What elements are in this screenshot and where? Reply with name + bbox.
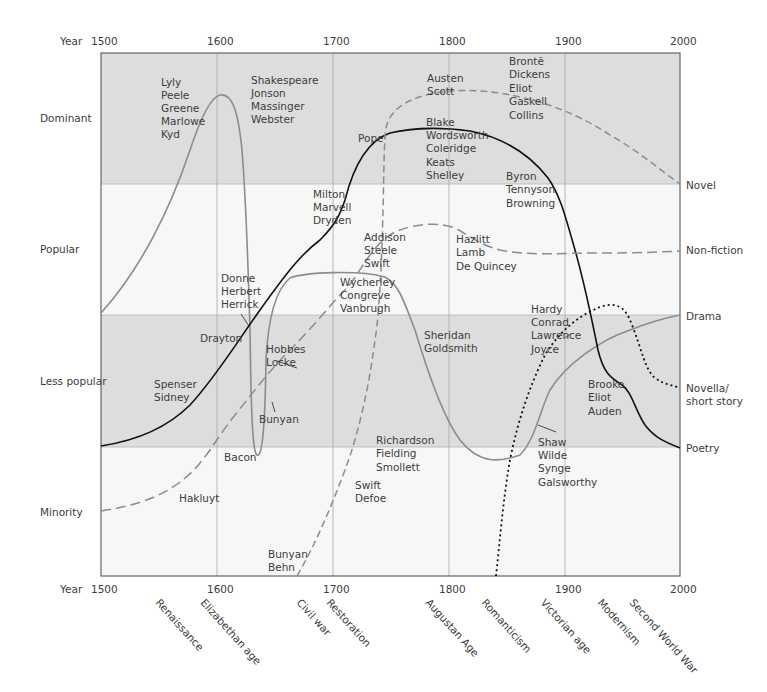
legend-drama: Drama	[686, 310, 722, 322]
tick-1500-bottom: 1500	[91, 583, 118, 595]
svg-text:Marlowe: Marlowe	[161, 115, 205, 127]
svg-text:Congreve: Congreve	[340, 289, 390, 301]
literary-genres-chart: Year 1500 1600 1700 1800 1900 2000 Year …	[0, 0, 767, 692]
tick-2000-bottom: 2000	[670, 583, 697, 595]
year-axis-label-top: Year	[59, 35, 83, 47]
svg-text:Tennyson: Tennyson	[505, 183, 555, 195]
svg-text:Lawrence: Lawrence	[531, 329, 581, 341]
svg-text:Locke: Locke	[266, 356, 296, 368]
annotation-hakluyt: Hakluyt	[179, 492, 219, 504]
svg-text:Spenser: Spenser	[154, 378, 197, 390]
legend-poetry: Poetry	[686, 442, 720, 454]
svg-text:Conrad: Conrad	[531, 316, 569, 328]
svg-text:Jonson: Jonson	[250, 87, 286, 99]
annotation-drayton: Drayton	[200, 332, 242, 344]
svg-text:Synge: Synge	[538, 462, 571, 474]
svg-text:Bunyan: Bunyan	[268, 548, 308, 560]
era-renaissance: Renaissance	[154, 596, 207, 653]
svg-text:Massinger: Massinger	[251, 100, 305, 112]
svg-text:De Quincey: De Quincey	[456, 260, 517, 272]
svg-text:Lamb: Lamb	[456, 246, 486, 258]
svg-text:Swift: Swift	[355, 479, 381, 491]
svg-text:Dryden: Dryden	[313, 214, 351, 226]
svg-text:Hobbes: Hobbes	[266, 343, 306, 355]
annotation-bacon: Bacon	[224, 451, 257, 463]
tick-1800-top: 1800	[439, 35, 466, 47]
svg-text:Keats: Keats	[426, 156, 455, 168]
svg-text:Lyly: Lyly	[161, 76, 181, 88]
svg-text:Joyce: Joyce	[530, 343, 559, 355]
era-restoration: Restoration	[325, 596, 374, 649]
svg-text:Byron: Byron	[506, 170, 537, 182]
svg-text:Browning: Browning	[506, 197, 555, 209]
annotation-bunyan: Bunyan	[259, 413, 299, 425]
band-label-less-popular: Less popular	[40, 375, 107, 387]
tick-1700-bottom: 1700	[323, 583, 350, 595]
svg-text:Collins: Collins	[509, 109, 544, 121]
band-label-popular: Popular	[40, 243, 80, 255]
svg-text:Herrick: Herrick	[221, 298, 259, 310]
era-augustan: Augustan Age	[424, 596, 482, 659]
svg-text:Herbert: Herbert	[221, 285, 261, 297]
svg-text:Behn: Behn	[268, 561, 295, 573]
svg-text:Milton: Milton	[313, 188, 345, 200]
era-victorian: Victorian age	[539, 596, 594, 656]
svg-text:Kyd: Kyd	[161, 128, 180, 140]
svg-text:Shaw: Shaw	[538, 436, 567, 448]
svg-text:Defoe: Defoe	[355, 492, 386, 504]
svg-text:Webster: Webster	[251, 113, 295, 125]
svg-text:Galsworthy: Galsworthy	[538, 476, 597, 488]
svg-text:Greene: Greene	[161, 102, 199, 114]
svg-text:Austen: Austen	[427, 72, 464, 84]
svg-text:Sheridan: Sheridan	[424, 329, 471, 341]
svg-text:Wycherley: Wycherley	[340, 276, 395, 288]
svg-text:Smollett: Smollett	[376, 461, 420, 473]
svg-text:Swift: Swift	[364, 257, 390, 269]
annotation-wycherley: Wycherley Congreve Vanbrugh	[340, 276, 395, 314]
svg-text:Pope: Pope	[358, 132, 384, 144]
svg-text:Brontë: Brontë	[509, 55, 544, 67]
tick-1800-bottom: 1800	[439, 583, 466, 595]
svg-text:Blake: Blake	[426, 116, 455, 128]
svg-text:Eliot: Eliot	[588, 391, 611, 403]
tick-1600-top: 1600	[207, 35, 234, 47]
svg-text:Wilde: Wilde	[538, 449, 567, 461]
legend-novel: Novel	[686, 179, 716, 191]
svg-text:Donne: Donne	[221, 272, 255, 284]
svg-text:Shakespeare: Shakespeare	[251, 74, 319, 86]
era-elizabethan: Elizabethan age	[199, 596, 264, 667]
band-label-dominant: Dominant	[40, 112, 92, 124]
svg-text:Gaskell: Gaskell	[509, 95, 547, 107]
svg-text:Vanbrugh: Vanbrugh	[340, 302, 390, 314]
svg-text:Richardson: Richardson	[376, 434, 434, 446]
tick-1900-bottom: 1900	[555, 583, 582, 595]
band-label-minority: Minority	[40, 506, 83, 518]
tick-1600-bottom: 1600	[207, 583, 234, 595]
svg-text:Eliot: Eliot	[509, 82, 532, 94]
legend-novella-line2: short story	[686, 395, 743, 407]
svg-text:Sidney: Sidney	[154, 391, 190, 403]
svg-text:Coleridge: Coleridge	[426, 142, 476, 154]
tick-1700-top: 1700	[323, 35, 350, 47]
svg-text:Brooke: Brooke	[588, 378, 624, 390]
tick-2000-top: 2000	[670, 35, 697, 47]
svg-text:Steele: Steele	[364, 244, 397, 256]
svg-text:Drayton: Drayton	[200, 332, 242, 344]
annotation-sheridan: Sheridan Goldsmith	[424, 329, 478, 354]
svg-text:Hazlitt: Hazlitt	[456, 233, 490, 245]
tick-1500-top: 1500	[91, 35, 118, 47]
svg-text:Peele: Peele	[161, 89, 189, 101]
svg-text:Bacon: Bacon	[224, 451, 257, 463]
svg-text:Dickens: Dickens	[509, 68, 550, 80]
svg-text:Bunyan: Bunyan	[259, 413, 299, 425]
svg-text:Scott: Scott	[427, 85, 454, 97]
svg-text:Marvell: Marvell	[313, 201, 351, 213]
year-axis-label-bottom: Year	[59, 583, 83, 595]
svg-text:Shelley: Shelley	[426, 169, 464, 181]
svg-text:Auden: Auden	[588, 405, 622, 417]
svg-text:Addison: Addison	[364, 231, 406, 243]
era-romanticism: Romanticism	[480, 596, 534, 655]
svg-text:Goldsmith: Goldsmith	[424, 342, 478, 354]
svg-text:Hardy: Hardy	[531, 303, 562, 315]
svg-text:Hakluyt: Hakluyt	[179, 492, 219, 504]
